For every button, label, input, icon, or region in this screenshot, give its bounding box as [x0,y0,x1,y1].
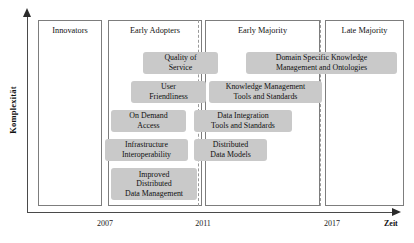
y-axis-arrow-icon [23,8,31,17]
tech-box-label: User Friendliness [149,82,188,101]
x-axis-label: Zeit [384,219,398,228]
phase-title-early-majority: Early Majority [206,26,319,35]
adoption-roadmap-diagram: Komplexität Zeit 2007 2011 2017 Innovato… [0,0,414,243]
phase-title-late-majority: Late Majority [326,26,403,35]
tech-box-label: Data Integration Tools and Standards [211,111,275,130]
tech-box-infrastructure-interoperability[interactable]: Infrastructure Interoperability [105,139,188,161]
tech-box-label: Distributed Data Models [210,140,251,159]
tech-box-on-demand-access[interactable]: On Demand Access [111,110,186,132]
tech-box-label: Quality of Service [164,53,196,72]
phase-column-innovators[interactable]: Innovators [38,20,102,206]
tech-box-user-friendliness[interactable]: User Friendliness [131,81,206,103]
x-axis-line [27,212,394,213]
x-tick-label-2017: 2017 [324,219,340,228]
x-tick-label-2011: 2011 [195,219,211,228]
tech-box-improved-distributed-data-management[interactable]: Improved Distributed Data Management [111,168,197,200]
phase-title-early-adopters: Early Adopters [109,26,201,35]
phase-column-late-majority[interactable]: Late Majority [325,20,404,206]
tech-box-label: Improved Distributed Data Management [125,170,183,199]
x-tick-label-2007: 2007 [97,219,113,228]
tech-box-label: Infrastructure Interoperability [122,140,171,159]
tech-box-data-integration-tools-and-standards[interactable]: Data Integration Tools and Standards [194,110,292,132]
y-axis-label: Komplexität [8,75,18,145]
tech-box-knowledge-management-tools-and-standards[interactable]: Knowledge Management Tools and Standards [209,81,322,103]
tech-box-quality-of-service[interactable]: Quality of Service [143,52,218,74]
phase-title-innovators: Innovators [39,26,101,35]
tech-box-label: On Demand Access [129,111,167,130]
phase-divider-dashed-2017 [320,20,321,206]
tech-box-domain-specific-knowledge-management-and-ontologies[interactable]: Domain Specific Knowledge Management and… [246,52,397,74]
tech-box-label: Knowledge Management Tools and Standards [226,82,306,101]
tech-box-label: Domain Specific Knowledge Management and… [276,53,368,72]
y-axis-line [27,16,28,213]
x-axis-arrow-icon [392,208,401,216]
tech-box-distributed-data-models[interactable]: Distributed Data Models [194,139,267,161]
